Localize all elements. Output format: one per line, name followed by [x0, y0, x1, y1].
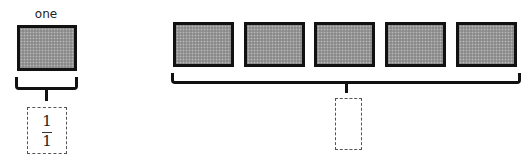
one-label: one — [26, 7, 66, 21]
numerator: 1 — [28, 112, 66, 130]
right-brace-stem — [345, 82, 348, 93]
left-answer-box[interactable]: 1 1 — [27, 107, 67, 154]
unit-box-5 — [456, 22, 517, 67]
denominator: 1 — [28, 132, 66, 150]
left-brace-stem — [45, 88, 48, 101]
unit-box-1 — [173, 22, 234, 67]
right-answer-box[interactable] — [335, 98, 362, 150]
unit-box-4 — [385, 22, 446, 67]
unit-box-3 — [314, 22, 375, 67]
unit-box-2 — [244, 22, 305, 67]
unit-box-whole — [17, 25, 77, 71]
